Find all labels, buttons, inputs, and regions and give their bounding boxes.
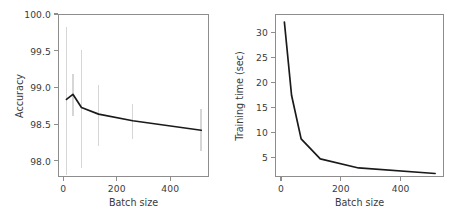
accuracy-ytick-label: 98.5 (30, 119, 51, 130)
training-time-ytick-label: 5 (262, 152, 268, 163)
accuracy-plot-frame (58, 14, 209, 177)
training-time-panel: 510152025300200400 Batch size Training t… (227, 0, 454, 224)
training-time-ytick-mark (271, 107, 275, 108)
training-time-plot-frame (275, 14, 444, 177)
accuracy-plot-area (59, 15, 208, 176)
training-time-ytick-label: 10 (256, 127, 268, 138)
accuracy-ytick-label: 99.0 (30, 82, 51, 93)
figure-root: 98.098.599.099.5100.00200400 Batch size … (0, 0, 454, 224)
accuracy-ytick-mark (54, 50, 58, 51)
training-time-ytick-mark (271, 132, 275, 133)
accuracy-xtick-mark (116, 177, 117, 181)
accuracy-ytick-label: 100.0 (24, 9, 51, 20)
training-time-series-line (276, 15, 445, 178)
accuracy-ytick-mark (54, 13, 58, 14)
accuracy-xtick-label: 400 (161, 183, 179, 194)
training-time-ytick-label: 30 (256, 27, 268, 38)
accuracy-xtick-mark (63, 177, 64, 181)
training-time-yaxis-title: Training time (sec) (234, 51, 245, 140)
accuracy-yaxis-title: Accuracy (14, 74, 25, 118)
training-time-xtick-mark (400, 177, 401, 181)
training-time-xtick-mark (340, 177, 341, 181)
accuracy-xaxis-title: Batch size (109, 197, 158, 208)
training-time-xtick-label: 400 (392, 183, 410, 194)
accuracy-ytick-mark (54, 160, 58, 161)
accuracy-ytick-label: 98.0 (30, 155, 51, 166)
accuracy-ytick-mark (54, 87, 58, 88)
accuracy-series-line (59, 15, 210, 178)
accuracy-ytick-label: 99.5 (30, 45, 51, 56)
training-time-xtick-label: 200 (332, 183, 350, 194)
accuracy-xtick-mark (170, 177, 171, 181)
training-time-ytick-mark (271, 82, 275, 83)
accuracy-xtick-label: 200 (108, 183, 126, 194)
accuracy-xtick-label: 0 (60, 183, 66, 194)
training-time-ytick-mark (271, 157, 275, 158)
accuracy-ytick-mark (54, 124, 58, 125)
training-time-xaxis-title: Batch size (335, 197, 384, 208)
training-time-ytick-mark (271, 32, 275, 33)
training-time-ytick-label: 25 (256, 52, 268, 63)
training-time-xtick-label: 0 (278, 183, 284, 194)
training-time-plot-area (276, 15, 443, 176)
training-time-ytick-mark (271, 57, 275, 58)
training-time-ytick-label: 20 (256, 77, 268, 88)
training-time-ytick-label: 15 (256, 102, 268, 113)
accuracy-panel: 98.098.599.099.5100.00200400 Batch size … (0, 0, 227, 224)
training-time-xtick-mark (280, 177, 281, 181)
